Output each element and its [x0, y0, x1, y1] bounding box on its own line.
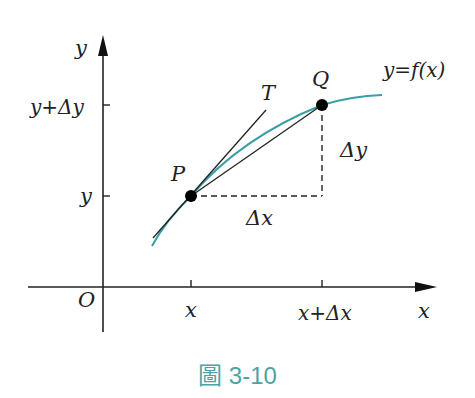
- point-p-label: P: [170, 162, 186, 186]
- x-tick-right-label: x+Δx: [298, 301, 352, 325]
- y-axis-arrow-icon: [98, 35, 108, 56]
- tangent-label: T: [261, 81, 277, 105]
- x-tick-left-label: x: [185, 298, 197, 322]
- delta-x-label: Δx: [245, 206, 273, 230]
- origin-label: O: [78, 288, 95, 312]
- y-tick-lower-label: y: [79, 184, 93, 208]
- point-q-label: Q: [312, 67, 329, 91]
- secant-line: [191, 105, 322, 196]
- derivative-diagram: y x O P Q T y=f(x) y y+Δy x x+Δx Δx Δy: [0, 0, 475, 398]
- point-q: [316, 99, 328, 111]
- y-axis-label: y: [74, 36, 88, 60]
- point-p: [185, 190, 197, 202]
- function-label: y=f(x): [382, 58, 445, 82]
- y-tick-upper-label: y+Δy: [29, 95, 85, 119]
- x-axis-arrow-icon: [415, 282, 437, 292]
- delta-y-label: Δy: [339, 138, 368, 162]
- x-axis-label: x: [418, 299, 430, 323]
- figure-caption: 圖 3-10: [0, 356, 475, 391]
